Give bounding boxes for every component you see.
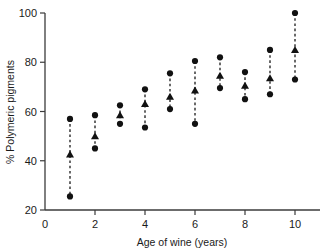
max-marker-circle [117,102,123,108]
max-marker-circle [92,112,98,118]
mean-marker-triangle [141,100,149,107]
min-marker-circle [167,106,173,112]
scatter-plot-svg: 20406080100 0246810 Age of wine (years) … [0,0,327,252]
min-marker-circle [117,121,123,127]
min-marker-circle [142,124,148,130]
data-points-layer [66,10,299,200]
chart-figure: 20406080100 0246810 Age of wine (years) … [0,0,327,252]
min-marker-circle [192,121,198,127]
mean-marker-triangle [216,72,224,79]
y-tick-label: 80 [25,56,37,68]
x-tick-label: 4 [142,218,148,230]
min-marker-circle [267,91,273,97]
max-marker-circle [292,10,298,16]
max-marker-circle [267,47,273,53]
mean-marker-triangle [191,87,199,94]
mean-marker-triangle [266,74,274,81]
min-marker-circle [92,145,98,151]
plot-axes [45,13,320,210]
mean-marker-triangle [66,151,74,158]
max-marker-circle [167,70,173,76]
y-tick-label: 60 [25,106,37,118]
max-marker-circle [142,86,148,92]
max-marker-circle [67,116,73,122]
x-tick-label: 10 [289,218,301,230]
y-axis-ticks: 20406080100 [19,7,45,216]
x-axis-ticks: 0246810 [42,210,301,230]
mean-marker-triangle [91,132,99,139]
x-tick-label: 2 [92,218,98,230]
x-tick-label: 0 [42,218,48,230]
min-marker-circle [242,96,248,102]
y-tick-label: 100 [19,7,37,19]
max-marker-circle [242,69,248,75]
max-marker-circle [217,54,223,60]
mean-marker-triangle [166,93,174,100]
y-axis-title: % Polymeric pigments [4,60,16,164]
y-tick-label: 20 [25,204,37,216]
x-axis-title: Age of wine (years) [137,236,227,248]
min-marker-circle [217,85,223,91]
mean-marker-triangle [241,82,249,89]
min-marker-circle [292,76,298,82]
mean-marker-triangle [291,46,299,53]
max-marker-circle [192,58,198,64]
y-tick-label: 40 [25,155,37,167]
x-tick-label: 8 [242,218,248,230]
mean-marker-triangle [116,111,124,118]
x-tick-label: 6 [192,218,198,230]
min-marker-circle [67,193,73,199]
